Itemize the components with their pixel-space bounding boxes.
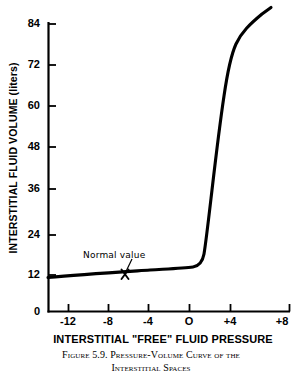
x-tick-label-minus8: -8 xyxy=(88,316,128,327)
x-axis-title: INTERSTITIAL "FREE" FLUID PRESSURE xyxy=(34,333,292,345)
plot-canvas xyxy=(0,0,302,330)
y-tick-marks xyxy=(49,24,57,275)
figure-caption-line-1: Figure 5.9. Pressure-Volume Curve of the xyxy=(0,349,302,362)
x-tick-label-plus8: +8 xyxy=(262,316,302,327)
normal-value-annotation: Normal value xyxy=(83,250,145,260)
figure-container: 84 72 60 48 36 24 12 0 -12 -8 -4 O +4 +8… xyxy=(0,0,302,374)
figure-caption-line-2: Interstitial Spaces xyxy=(0,362,302,374)
x-tick-label-minus4: -4 xyxy=(128,316,168,327)
x-tick-label-zero: O xyxy=(169,316,209,327)
pressure-volume-curve xyxy=(48,8,271,278)
x-tick-marks xyxy=(69,304,290,312)
y-axis-title: INTERSTITIAL FLUID VOLUME (liters) xyxy=(4,2,22,314)
x-tick-label-minus12: -12 xyxy=(48,316,88,327)
figure-caption: Figure 5.9. Pressure-Volume Curve of the… xyxy=(0,349,302,374)
x-tick-label-plus4: +4 xyxy=(210,316,250,327)
